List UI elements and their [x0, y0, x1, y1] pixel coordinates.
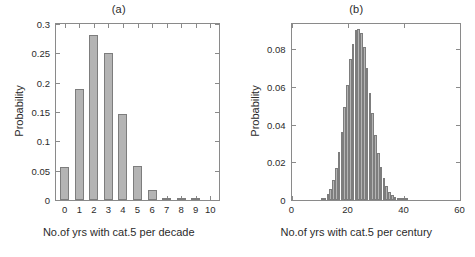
y-tick-label: 0.3	[37, 19, 50, 30]
y-tick-mark	[292, 87, 296, 88]
x-tick-label: 4	[120, 204, 125, 215]
x-tick-mark-top	[460, 24, 461, 28]
y-tick-mark	[56, 112, 60, 113]
y-tick-mark-right	[456, 49, 460, 50]
histogram-bar	[118, 114, 127, 200]
x-tick-mark-top	[167, 24, 168, 28]
panel-b-x-axis-title: No.of yrs with cat.5 per century	[238, 226, 475, 238]
panel-a-plot-area: 00.050.10.150.20.250.3012345678910	[55, 23, 220, 201]
y-tick-mark-right	[215, 53, 219, 54]
y-tick-label: 0.15	[32, 107, 51, 118]
y-tick-mark-right	[215, 171, 219, 172]
panel-a-y-axis-title: Probability	[13, 66, 25, 156]
histogram-bar	[405, 198, 408, 200]
x-tick-label: 2	[91, 204, 96, 215]
x-tick-mark-top	[210, 24, 211, 28]
x-tick-mark-top	[94, 24, 95, 28]
histogram-bar	[104, 53, 113, 200]
x-tick-label: 8	[179, 204, 184, 215]
x-tick-mark-top	[404, 24, 405, 28]
x-tick-label: 0	[62, 204, 67, 215]
y-tick-label: 0.25	[32, 48, 51, 59]
panel-b-y-axis-title: Probability	[249, 66, 261, 156]
x-tick-mark-top	[196, 24, 197, 28]
y-tick-mark	[292, 125, 296, 126]
x-tick-label: 40	[398, 204, 409, 215]
x-tick-mark-top	[292, 24, 293, 28]
x-tick-label: 6	[149, 204, 154, 215]
y-tick-mark-right	[456, 162, 460, 163]
histogram-bar	[162, 198, 171, 200]
y-tick-label: 0.08	[267, 44, 286, 55]
histogram-bar	[191, 198, 200, 200]
histogram-bar	[177, 198, 186, 200]
panel-b: (b) 00.020.040.060.080204060 Probability…	[238, 0, 475, 257]
y-tick-label: 0.05	[32, 165, 51, 176]
histogram-bar	[148, 190, 157, 200]
y-tick-label: 0.04	[267, 119, 286, 130]
y-tick-mark	[56, 141, 60, 142]
x-tick-label: 3	[106, 204, 111, 215]
y-tick-mark-right	[456, 87, 460, 88]
x-tick-mark	[292, 196, 293, 200]
x-tick-mark-top	[152, 24, 153, 28]
x-tick-label: 20	[342, 204, 353, 215]
panel-a-x-axis-title: No.of yrs with cat.5 per decade	[0, 226, 238, 238]
x-tick-mark-top	[348, 24, 349, 28]
x-tick-mark-top	[123, 24, 124, 28]
y-tick-mark-right	[456, 125, 460, 126]
histogram-bar	[75, 89, 84, 200]
x-tick-label: 1	[77, 204, 82, 215]
figure-container: (a) 00.050.10.150.20.250.3012345678910 P…	[0, 0, 475, 257]
histogram-bar	[60, 167, 69, 200]
x-tick-label: 10	[205, 204, 216, 215]
panel-b-plot-area: 00.020.040.060.080204060	[291, 23, 461, 201]
x-tick-mark-top	[79, 24, 80, 28]
x-tick-label: 9	[193, 204, 198, 215]
x-tick-mark-top	[138, 24, 139, 28]
x-tick-mark	[210, 196, 211, 200]
y-tick-label: 0.2	[37, 77, 50, 88]
y-tick-mark	[292, 162, 296, 163]
histogram-bar	[133, 166, 142, 200]
y-tick-mark-right	[215, 83, 219, 84]
panel-a: (a) 00.050.10.150.20.250.3012345678910 P…	[0, 0, 238, 257]
y-tick-label: 0.1	[37, 136, 50, 147]
x-tick-mark	[460, 196, 461, 200]
y-tick-mark	[56, 53, 60, 54]
y-tick-mark-right	[215, 200, 219, 201]
x-tick-label: 5	[135, 204, 140, 215]
x-tick-mark-top	[65, 24, 66, 28]
y-tick-label: 0	[45, 195, 50, 206]
histogram-bar	[89, 35, 98, 200]
y-tick-mark-right	[215, 24, 219, 25]
y-tick-mark	[56, 24, 60, 25]
x-tick-mark-top	[108, 24, 109, 28]
y-tick-mark-right	[215, 141, 219, 142]
y-tick-mark	[292, 49, 296, 50]
y-tick-mark	[292, 200, 296, 201]
panel-a-title: (a)	[0, 3, 238, 15]
y-tick-label: 0.02	[267, 157, 286, 168]
y-tick-mark	[56, 200, 60, 201]
y-tick-mark	[56, 83, 60, 84]
y-tick-label: 0.06	[267, 82, 286, 93]
y-tick-mark-right	[215, 112, 219, 113]
x-tick-label: 7	[164, 204, 169, 215]
y-tick-label: 0	[280, 195, 285, 206]
x-tick-label: 0	[289, 204, 294, 215]
y-tick-mark-right	[456, 200, 460, 201]
panel-b-title: (b)	[238, 3, 475, 15]
x-tick-mark-top	[181, 24, 182, 28]
x-tick-label: 60	[454, 204, 465, 215]
